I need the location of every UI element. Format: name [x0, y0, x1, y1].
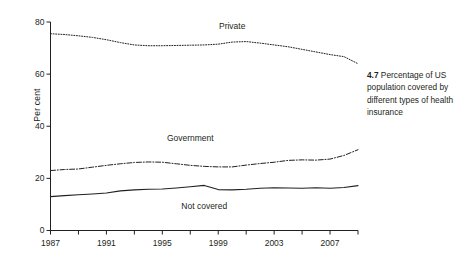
- chart-axes: [51, 22, 359, 231]
- y-tick-label: 20: [23, 173, 45, 183]
- y-tick-label: 80: [23, 17, 45, 27]
- series-label-not-covered: Not covered: [181, 201, 227, 211]
- series-label-government: Government: [167, 133, 214, 143]
- figure-number: 4.7: [367, 70, 379, 80]
- figure-page: Per cent 020406080 198719911995199920032…: [0, 0, 468, 259]
- series-line-private: [51, 34, 359, 64]
- x-tick-label: 1999: [198, 238, 238, 248]
- series-line-not-covered: [51, 185, 359, 196]
- y-tick-label: 0: [23, 225, 45, 235]
- chart-figure: Per cent 020406080 198719911995199920032…: [0, 0, 365, 259]
- y-tick-label: 60: [23, 69, 45, 79]
- figure-caption: 4.7 Percentage of US population covered …: [367, 69, 465, 118]
- x-tick-label: 2007: [310, 238, 350, 248]
- x-axis-ticks: [51, 231, 359, 235]
- y-axis-ticks: [47, 22, 51, 231]
- y-tick-label: 40: [23, 121, 45, 131]
- series-line-government: [51, 150, 359, 171]
- x-tick-label: 1995: [142, 238, 182, 248]
- chart-series-group: [51, 34, 359, 197]
- line-chart: [0, 0, 365, 259]
- x-tick-label: 1987: [31, 238, 71, 248]
- figure-caption-text: Percentage of US population covered by d…: [367, 70, 453, 117]
- x-tick-label: 1991: [86, 238, 126, 248]
- x-tick-label: 2003: [254, 238, 294, 248]
- series-label-private: Private: [219, 21, 245, 31]
